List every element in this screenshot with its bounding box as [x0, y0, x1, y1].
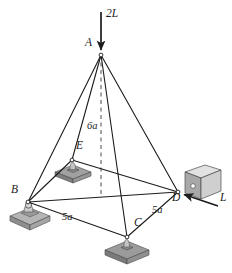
support-flat-pad-C: [105, 239, 149, 264]
joint-B: [26, 200, 30, 204]
truss-diagram-canvas: [0, 0, 232, 273]
node-label-B: B: [11, 184, 18, 196]
support-flat-pad-E: [55, 162, 91, 183]
dimension-label-bc: 5a: [62, 212, 73, 223]
joint-E: [70, 158, 74, 162]
member-B-D: [28, 192, 178, 202]
load-label-L: L: [220, 192, 226, 204]
node-label-E: E: [76, 140, 83, 152]
member-B-E: [28, 160, 72, 202]
member-A-C: [101, 55, 127, 237]
joint-C: [125, 235, 129, 239]
dimension-label-cd: 5a: [152, 205, 163, 216]
support-ball-socket-B: [10, 202, 50, 230]
node-label-C: C: [134, 217, 142, 229]
space-truss-figure: A B C D E 6a 5a 5a 2L L: [0, 0, 232, 273]
joint-A: [99, 53, 103, 57]
node-label-D: D: [172, 192, 180, 204]
support-block-D: [185, 165, 221, 199]
member-A-D: [101, 55, 178, 192]
node-label-A: A: [85, 37, 92, 49]
load-label-2L: 2L: [106, 8, 118, 20]
dimension-label-height: 6a: [87, 121, 98, 132]
